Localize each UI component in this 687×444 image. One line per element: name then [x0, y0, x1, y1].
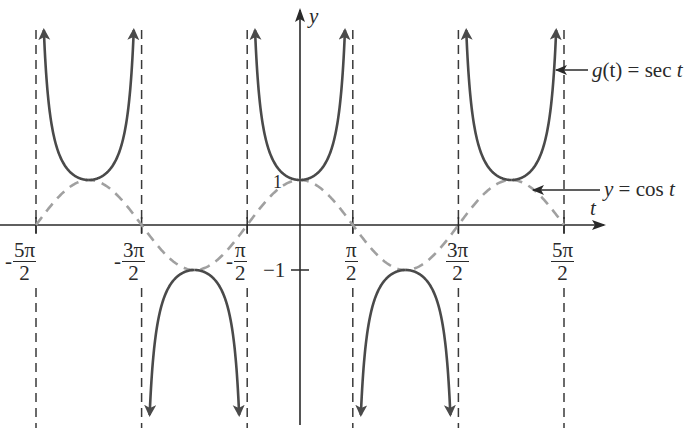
sec-branch-path	[150, 270, 195, 415]
sec-branch-path	[466, 30, 511, 180]
x-tick-label-neg-3pi-2: - 3π2	[114, 240, 145, 283]
sec-branch-path	[511, 30, 556, 180]
y-axis-label: y	[309, 4, 318, 29]
x-tick-label-neg-5pi-2: - 5π2	[5, 240, 36, 283]
x-tick-label-3pi-2: 3π2	[446, 240, 469, 283]
sec-branch-path	[255, 30, 300, 180]
sec-annotation: g(t) = sec t	[592, 58, 683, 83]
axes	[0, 10, 604, 425]
sec-branch-path	[300, 30, 345, 180]
sec-branch-path	[44, 30, 89, 180]
annotation-pointers	[533, 70, 600, 190]
sec-branch-path	[89, 30, 134, 180]
sec-branch-path	[406, 270, 451, 415]
y-tick-label-one: 1	[273, 172, 282, 193]
t-axis-label: t	[590, 196, 596, 221]
x-tick-label-neg-pi-2: - π2	[226, 240, 247, 283]
x-tick-label-pi-2: π2	[345, 240, 358, 283]
x-tick-label-5pi-2: 5π2	[551, 240, 574, 283]
sec-branch-path	[194, 270, 239, 415]
secant-cosine-chart	[0, 0, 687, 444]
y-tick-label-neg-one: −1	[263, 258, 285, 283]
cos-annotation: y = cos t	[604, 177, 675, 202]
sec-branch-path	[361, 270, 406, 415]
